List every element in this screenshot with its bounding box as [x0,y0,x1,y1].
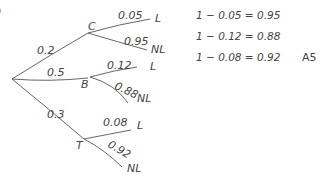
prob-c-l: 0.05 [118,9,143,22]
prob-b-l: 0.12 [107,59,132,72]
outcome-t-l: L [137,119,143,132]
prob-c: 0.2 [37,44,55,57]
node-b: B [81,78,89,91]
outcome-b-nl: NL [137,92,151,105]
prob-t: 0.3 [47,108,65,121]
prob-b: 0.5 [47,66,65,79]
mark-scheme-ref: A5 [302,51,317,64]
prob-c-nl: 0.95 [124,35,149,48]
outcome-c-nl: NL [151,43,165,56]
node-c: C [88,20,96,33]
node-t: T [76,139,83,152]
equation-1: 1 − 0.05 = 0.95 [196,9,280,21]
equation-3: 1 − 0.08 = 0.92 [196,51,280,63]
outcome-t-nl: NL [127,162,141,175]
prob-t-l: 0.08 [103,116,128,129]
tree-lines [0,0,335,178]
outcome-c-l: L [155,12,161,25]
partial-parenthesis: ) [0,4,1,17]
outcome-b-l: L [150,60,156,73]
equation-2: 1 − 0.12 = 0.88 [196,30,280,42]
